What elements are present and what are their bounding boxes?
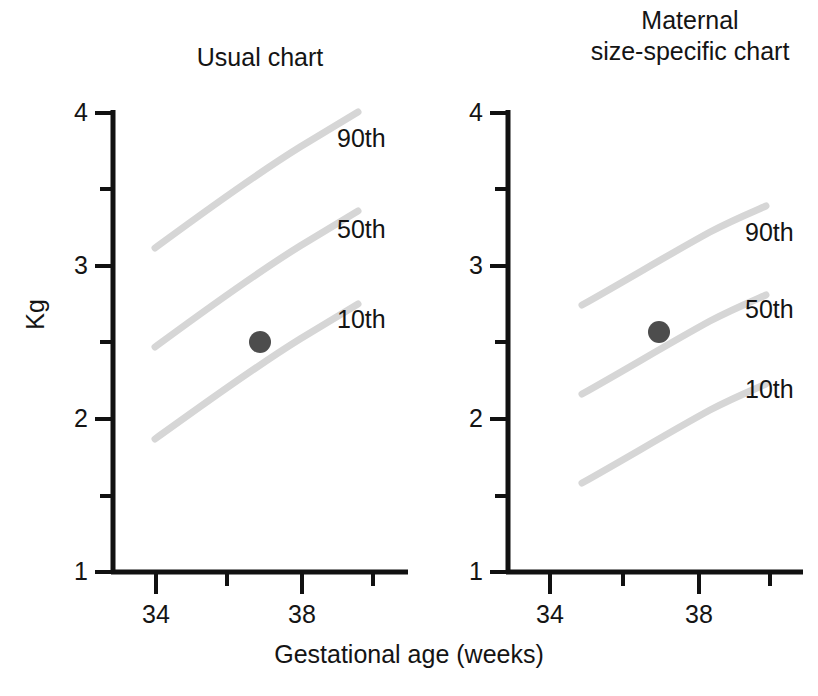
plot-canvas <box>0 0 818 696</box>
y-tick-label-usual-4: 4 <box>52 98 88 127</box>
data-point-maternal <box>648 321 670 343</box>
panel-maternal-size-specific-chart <box>490 110 803 594</box>
panel-title-maternal-size-specific-chart: Maternal size-specific chart <box>550 5 818 67</box>
y-tick-label-maternal-1: 1 <box>447 557 483 586</box>
y-tick-label-usual-1: 1 <box>52 557 88 586</box>
data-point-usual <box>249 331 271 353</box>
curve-maternal-50th <box>582 295 766 394</box>
curve-label-usual-90th: 90th <box>337 124 386 153</box>
y-axis-title: Kg <box>21 270 50 360</box>
y-tick-label-usual-2: 2 <box>52 404 88 433</box>
panel-usual-chart <box>95 110 408 594</box>
figure-birthweight-centile-charts: Usual chart Maternal size-specific chart… <box>0 0 818 696</box>
curve-usual-50th <box>155 211 358 347</box>
curve-label-maternal-90th: 90th <box>745 218 794 247</box>
curve-label-usual-10th: 10th <box>337 305 386 334</box>
x-tick-label-usual-38: 38 <box>272 600 332 629</box>
panel-title-usual-chart: Usual chart <box>130 42 390 73</box>
y-tick-label-maternal-3: 3 <box>447 251 483 280</box>
x-tick-label-usual-34: 34 <box>126 600 186 629</box>
x-tick-label-maternal-34: 34 <box>520 600 580 629</box>
y-tick-label-maternal-2: 2 <box>447 404 483 433</box>
y-tick-label-usual-3: 3 <box>52 251 88 280</box>
curve-label-usual-50th: 50th <box>337 215 386 244</box>
x-tick-label-maternal-38: 38 <box>669 600 729 629</box>
curve-label-maternal-50th: 50th <box>745 295 794 324</box>
curve-maternal-90th <box>582 206 766 305</box>
curve-label-maternal-10th: 10th <box>745 375 794 404</box>
curve-maternal-10th <box>582 384 766 483</box>
y-tick-label-maternal-4: 4 <box>447 98 483 127</box>
x-axis-title: Gestational age (weeks) <box>209 640 609 669</box>
